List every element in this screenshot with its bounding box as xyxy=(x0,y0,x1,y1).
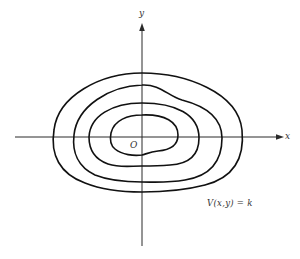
diagram-canvas xyxy=(0,0,300,259)
x-axis-label: x xyxy=(285,132,290,141)
level-curve-3 xyxy=(89,103,199,167)
x-axis-arrow-icon xyxy=(276,134,284,140)
level-curve-label: V(x,y) = k xyxy=(207,199,253,208)
level-curve-4 xyxy=(110,115,178,155)
level-curve-1 xyxy=(53,73,242,192)
x-axis xyxy=(15,134,284,140)
y-axis-label: y xyxy=(139,9,144,18)
y-axis xyxy=(139,23,145,246)
origin-label: O xyxy=(130,141,137,150)
level-curve-2 xyxy=(74,85,222,182)
y-axis-arrow-icon xyxy=(139,23,145,31)
level-curves-diagram: y x O V(x,y) = k xyxy=(0,0,300,259)
